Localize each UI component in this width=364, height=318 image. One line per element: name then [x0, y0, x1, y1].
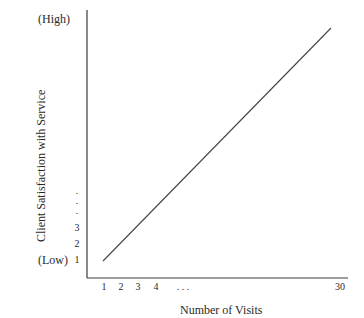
- y-tick-dot: .: [71, 195, 83, 206]
- y-low-label: (Low): [38, 253, 68, 268]
- y-axis-title: Client Satisfaction with Service: [34, 90, 49, 242]
- x-tick-1: 1: [97, 281, 111, 292]
- x-tick-2: 2: [114, 281, 128, 292]
- x-tick-4: 4: [149, 281, 163, 292]
- x-axis-title: Number of Visits: [180, 303, 262, 318]
- y-tick-2: 2: [71, 238, 83, 249]
- y-tick-1: 1: [71, 254, 83, 265]
- y-tick-3: 3: [71, 222, 83, 233]
- y-high-label: (High): [38, 12, 70, 27]
- x-tick-3: 3: [131, 281, 145, 292]
- data-line: [103, 28, 331, 261]
- x-tick-ellipsis: . . .: [168, 281, 198, 292]
- y-tick-dot: .: [71, 205, 83, 216]
- x-tick-30: 30: [333, 281, 347, 292]
- y-tick-dot: .: [71, 185, 83, 196]
